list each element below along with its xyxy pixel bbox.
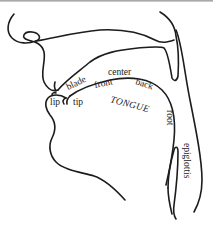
label-back: back [134,76,154,91]
label-center: center [108,67,132,77]
label-tip: tip [73,97,83,107]
label-lip: lip [50,97,60,107]
label-blade: blade [65,74,88,92]
label-tongue: TONGUE [109,94,150,114]
nasal-roof-line [36,30,174,42]
lower-lip-chin [46,95,125,200]
nose-outline [8,14,58,91]
diagram-canvas: lip tip blade front center back TONGUE r… [0,0,213,235]
larynx-front-line [168,188,172,214]
label-front: front [93,76,113,90]
epiglottis-shape [168,147,178,219]
pharynx-back-wall [176,30,202,212]
label-root: root [165,110,175,126]
vocal-tract-figure: lip tip blade front center back TONGUE r… [0,0,213,235]
upper-incisor [54,82,56,91]
tongue-surface [70,78,175,185]
label-epiglottis: epiglottis [182,143,192,179]
